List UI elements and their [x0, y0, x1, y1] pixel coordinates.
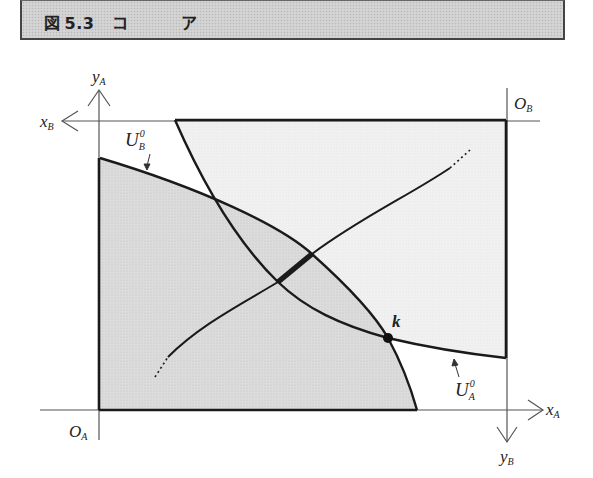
label-x-b: xB	[39, 112, 54, 132]
label-x-a: xA	[545, 400, 561, 420]
label-y-a: yA	[90, 67, 107, 87]
label-origin-a: OA	[69, 422, 88, 442]
endowment-point-k	[383, 333, 393, 343]
label-origin-b: OB	[514, 94, 532, 114]
edgeworth-box-diagram: k yA xB OB OA xA yB U0B U0A	[0, 0, 593, 478]
label-indifference-b: U0B	[125, 128, 145, 152]
label-y-b: yB	[498, 447, 514, 467]
label-indifference-a: U0A	[455, 378, 476, 402]
label-k: k	[392, 312, 401, 331]
